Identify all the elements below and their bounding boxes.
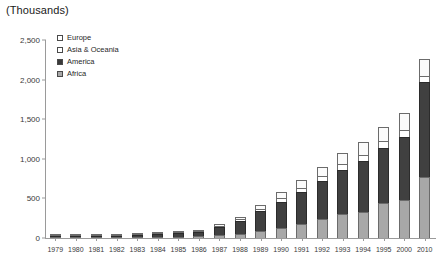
bar-column[interactable]: [358, 142, 369, 238]
bar-column[interactable]: [317, 167, 328, 238]
bar-segment-africa[interactable]: [378, 203, 389, 238]
x-axis-tick-mark: [322, 238, 323, 241]
bar-segment-america[interactable]: [399, 137, 410, 200]
x-axis-tick-label: 1987: [212, 246, 228, 253]
x-axis-tick-mark: [96, 238, 97, 241]
x-axis-tick-label: 1989: [253, 246, 269, 253]
x-axis-tick-mark: [199, 238, 200, 241]
x-axis-tick-mark: [137, 238, 138, 241]
y-axis-tick-mark: [42, 158, 46, 159]
x-axis-tick-label: 1985: [171, 246, 187, 253]
x-axis-tick-label: 1981: [89, 246, 105, 253]
bar-segment-africa[interactable]: [276, 228, 287, 238]
bar-segment-america[interactable]: [378, 148, 389, 203]
bar-segment-america[interactable]: [276, 202, 287, 228]
bar-segment-america[interactable]: [235, 221, 246, 234]
bar-segment-europe[interactable]: [296, 180, 307, 188]
bar-segment-america[interactable]: [255, 211, 266, 231]
bar-column[interactable]: [296, 180, 307, 238]
x-axis-tick-label: 1991: [294, 246, 310, 253]
x-axis-tick-label: 1982: [109, 246, 125, 253]
x-axis-tick-label: 1995: [376, 246, 392, 253]
legend-swatch-asia-oceania-icon: [57, 47, 63, 53]
bar-segment-africa[interactable]: [337, 214, 348, 238]
legend-label-america: America: [67, 57, 95, 66]
x-axis-tick-mark: [343, 238, 344, 241]
x-axis-tick-label: 1983: [130, 246, 146, 253]
bar-segment-africa[interactable]: [296, 224, 307, 238]
y-axis-tick-mark: [42, 238, 46, 239]
legend-label-africa: Africa: [67, 69, 86, 78]
bar-segment-america[interactable]: [337, 170, 348, 214]
x-axis-tick-mark: [178, 238, 179, 241]
bar-column[interactable]: [214, 224, 225, 238]
x-axis-tick-mark: [302, 238, 303, 241]
x-axis-tick-label: 1994: [355, 246, 371, 253]
bar-segment-asia-oceania[interactable]: [399, 130, 410, 137]
legend-label-asia-oceania: Asia & Oceania: [67, 45, 119, 54]
bar-column[interactable]: [235, 217, 246, 238]
bar-column[interactable]: [399, 113, 410, 238]
bar-segment-africa[interactable]: [255, 231, 266, 238]
bar-column[interactable]: [419, 59, 430, 238]
legend-item-africa[interactable]: Africa: [57, 69, 119, 78]
x-axis-tick-mark: [219, 238, 220, 241]
x-axis-tick-label: 1980: [68, 246, 84, 253]
x-axis-tick-mark: [363, 238, 364, 241]
x-axis-tick-mark: [76, 238, 77, 241]
x-axis-tick-label: 1979: [47, 246, 63, 253]
bar-segment-europe[interactable]: [399, 113, 410, 130]
legend-swatch-america-icon: [57, 59, 63, 65]
bar-segment-america[interactable]: [317, 181, 328, 219]
bar-column[interactable]: [337, 153, 348, 238]
legend-swatch-africa-icon: [57, 71, 63, 77]
bar-column[interactable]: [276, 192, 287, 238]
bar-segment-africa[interactable]: [358, 212, 369, 238]
bar-segment-africa[interactable]: [317, 219, 328, 238]
y-axis-tick-mark: [42, 40, 46, 41]
bar-segment-europe[interactable]: [419, 59, 430, 76]
x-axis-tick-mark: [240, 238, 241, 241]
bar-segment-africa[interactable]: [419, 177, 430, 238]
bar-segment-america[interactable]: [419, 82, 430, 177]
chart-title: (Thousands): [6, 4, 69, 16]
x-axis-tick-label: 1993: [335, 246, 351, 253]
bar-segment-europe[interactable]: [337, 153, 348, 164]
x-axis-tick-label: 1990: [273, 246, 289, 253]
bar-segment-america[interactable]: [358, 161, 369, 212]
x-axis-tick-mark: [404, 238, 405, 241]
bar-column[interactable]: [255, 205, 266, 238]
bar-segment-europe[interactable]: [317, 167, 328, 177]
x-axis-tick-mark: [158, 238, 159, 241]
bar-segment-africa[interactable]: [399, 200, 410, 238]
x-axis-tick-label: 1986: [191, 246, 207, 253]
bar-segment-europe[interactable]: [358, 142, 369, 155]
y-axis-tick-mark: [42, 198, 46, 199]
y-axis-tick-mark: [42, 119, 46, 120]
legend-label-europe: Europe: [67, 33, 91, 42]
x-axis-tick-label: 1984: [150, 246, 166, 253]
x-axis-tick-mark: [384, 238, 385, 241]
bar-segment-america[interactable]: [214, 227, 225, 235]
x-axis-tick-mark: [117, 238, 118, 241]
chart-legend: Europe Asia & Oceania America Africa: [57, 33, 119, 78]
stacked-column-chart: (Thousands) 05001,0001,5002,0002,500 Eur…: [0, 0, 444, 263]
bar-column[interactable]: [173, 231, 184, 238]
x-axis-tick-label: 1992: [314, 246, 330, 253]
bar-segment-asia-oceania[interactable]: [378, 141, 389, 148]
bar-column[interactable]: [193, 230, 204, 238]
legend-item-europe[interactable]: Europe: [57, 33, 119, 42]
x-axis-tick-label: 2010: [417, 246, 433, 253]
x-axis-tick-label: 1988: [232, 246, 248, 253]
legend-swatch-europe-icon: [57, 35, 63, 41]
x-axis-tick-label: 2000: [396, 246, 412, 253]
legend-item-america[interactable]: America: [57, 57, 119, 66]
y-axis-tick-mark: [42, 79, 46, 80]
x-axis-tick-mark: [55, 238, 56, 241]
x-axis-tick-mark: [281, 238, 282, 241]
x-axis-tick-mark: [425, 238, 426, 241]
legend-item-asia-oceania[interactable]: Asia & Oceania: [57, 45, 119, 54]
bar-segment-america[interactable]: [296, 192, 307, 224]
bar-column[interactable]: [378, 127, 389, 238]
bar-segment-europe[interactable]: [378, 127, 389, 141]
